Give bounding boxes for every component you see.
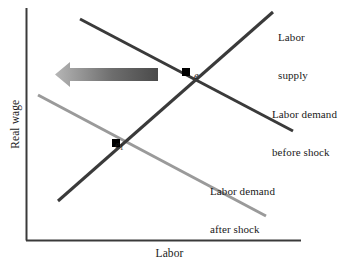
labor-demand-before-shock-label: Labor demand before shock — [272, 83, 337, 183]
equilibrium-label-e1-subscript: 1 — [120, 143, 124, 152]
demand-shift-arrow — [55, 62, 158, 87]
labor-supply-label-line1: Labor — [278, 31, 308, 44]
equilibrium-label-e-text: e — [194, 70, 199, 81]
labor-demand-after-shock-label-line2: after shock — [210, 223, 275, 236]
labor-demand-after-shock-label: Labor demand after shock — [210, 160, 275, 259]
equilibrium-label-e1: e1 — [104, 126, 124, 167]
y-axis-label: Real wage — [9, 89, 22, 159]
labor-demand-before-shock-label-line2: before shock — [272, 146, 337, 159]
equilibrium-label-e: e — [183, 57, 199, 95]
labor-supply-label-line2: supply — [278, 69, 308, 82]
x-axis-label: Labor — [0, 247, 339, 259]
labor-demand-after-shock-label-line1: Labor demand — [210, 185, 275, 198]
labor-market-diagram: Labor supply Labor demand before shock L… — [0, 0, 339, 259]
labor-demand-before-shock-label-line1: Labor demand — [272, 108, 337, 121]
